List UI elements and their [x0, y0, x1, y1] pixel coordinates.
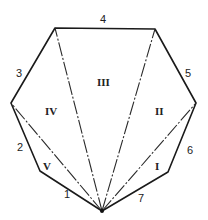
diagonal-to-right — [102, 103, 196, 211]
region-label-II: II — [155, 105, 164, 117]
region-label-III: III — [97, 76, 110, 88]
heptagon-diagram: 1 2 3 4 5 6 7 I II III IV V — [0, 0, 208, 220]
region-label-I: I — [155, 160, 159, 172]
region-label-IV: IV — [45, 105, 57, 117]
edge-label-1: 1 — [64, 188, 70, 200]
edge-label-4: 4 — [100, 13, 106, 25]
edge-label-6: 6 — [187, 144, 193, 156]
edge-label-3: 3 — [16, 67, 22, 79]
diagonal-to-left — [11, 103, 102, 211]
edge-label-7: 7 — [138, 192, 144, 204]
edge-label-5: 5 — [185, 67, 191, 79]
edge-label-2: 2 — [17, 141, 23, 153]
region-label-V: V — [43, 160, 51, 172]
heptagon-outline — [11, 28, 196, 211]
apex-vertex — [100, 209, 104, 213]
